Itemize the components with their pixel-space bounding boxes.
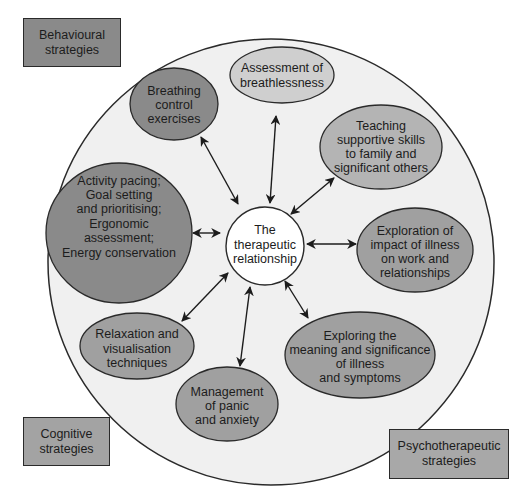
- legend-psychotherapeutic-line2: strategies: [398, 454, 501, 469]
- center-node-therapeutic-relationship: Thetherapeuticrelationship: [226, 207, 304, 285]
- svg-text:Relaxation andvisualisationtec: Relaxation andvisualisationtechniques: [95, 327, 178, 370]
- legend-behavioural-line2: strategies: [39, 43, 105, 58]
- legend-psychotherapeutic-strategies: Psychotherapeutic strategies: [389, 429, 509, 479]
- legend-cognitive-strategies: Cognitive strategies: [23, 417, 110, 466]
- node-activity: Activity pacing;Goal settingand prioriti…: [46, 163, 192, 303]
- node-assessment: Assessment ofbreathlessness: [230, 47, 334, 103]
- legend-behavioural-line1: Behavioural: [39, 28, 105, 43]
- legend-psychotherapeutic-line1: Psychotherapeutic: [398, 439, 501, 454]
- legend-cognitive-line2: strategies: [39, 442, 93, 457]
- node-breathing: Breathingcontrolexercises: [130, 68, 218, 140]
- legend-behavioural-strategies: Behavioural strategies: [23, 18, 121, 67]
- node-exploration: Exploration ofimpact of illnesson work a…: [357, 208, 473, 292]
- node-meaning: Exploring themeaning and significanceof …: [285, 312, 435, 398]
- legend-cognitive-line1: Cognitive: [39, 427, 93, 442]
- node-relaxation: Relaxation andvisualisationtechniques: [80, 313, 194, 379]
- node-teaching: Teachingsupportive skillsto family andsi…: [320, 105, 442, 189]
- node-panic: Managementof panicand anxiety: [176, 367, 278, 441]
- svg-text:Exploration ofimpact of illnes: Exploration ofimpact of illnesson work a…: [371, 224, 460, 280]
- svg-text:Assessment ofbreathlessness: Assessment ofbreathlessness: [240, 61, 324, 90]
